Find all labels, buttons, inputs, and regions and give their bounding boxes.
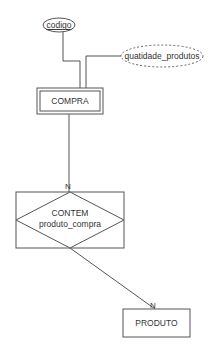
cardinality-compra: N (65, 182, 71, 191)
attribute-codigo-label: codigo (46, 20, 71, 30)
entity-produto-label: PRODUTO (135, 318, 178, 328)
er-diagram-canvas: codigo quatidade_produtos COMPRA N CONTE… (0, 0, 218, 354)
relationship-contem-sublabel: produto_compra (39, 219, 101, 229)
relationship-contem-label: CONTEM (52, 208, 89, 218)
attribute-quatidade-produtos-label: quatidade_produtos (124, 51, 199, 61)
relationship-contem[interactable]: CONTEM produto_compra (16, 192, 124, 248)
attribute-codigo[interactable]: codigo (43, 18, 75, 32)
attribute-quatidade-produtos[interactable]: quatidade_produtos (121, 45, 203, 67)
entity-compra[interactable]: COMPRA (37, 88, 103, 114)
connector-contem-produto (70, 248, 155, 309)
entity-produto[interactable]: PRODUTO (123, 309, 190, 337)
connector-quantidade-compra (86, 56, 121, 88)
entity-compra-label: COMPRA (51, 96, 89, 106)
connector-codigo-compra (63, 32, 80, 88)
